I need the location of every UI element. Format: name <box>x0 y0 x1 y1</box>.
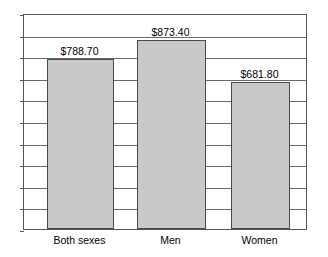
y-axis-tick <box>20 209 24 210</box>
value-label-men: $873.40 <box>136 26 205 38</box>
y-axis-tick <box>20 231 24 232</box>
bar-women[interactable] <box>231 82 290 229</box>
bar-both-sexes[interactable] <box>47 59 114 229</box>
value-label-both-sexes: $788.70 <box>46 45 113 57</box>
y-axis-tick <box>20 166 24 167</box>
bar-chart-figure: $788.70 $873.40 $681.80 Both sexes Men W… <box>0 0 328 257</box>
y-axis-tick <box>20 145 24 146</box>
y-axis-tick <box>20 37 24 38</box>
y-axis-tick <box>20 15 24 16</box>
y-axis-tick <box>20 188 24 189</box>
value-label-women: $681.80 <box>230 68 289 80</box>
y-axis-tick <box>20 123 24 124</box>
y-axis-tick <box>20 58 24 59</box>
category-label-women: Women <box>218 234 301 247</box>
y-axis-tick <box>20 101 24 102</box>
category-label-both-sexes: Both sexes <box>34 234 125 247</box>
y-axis-tick <box>20 80 24 81</box>
bar-men[interactable] <box>137 40 206 229</box>
category-label-men: Men <box>124 234 217 247</box>
